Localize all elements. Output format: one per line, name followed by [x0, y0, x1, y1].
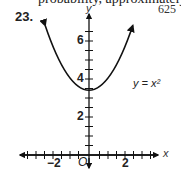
x-axis-label: x	[163, 147, 169, 159]
x-tick-label-neg2: −2	[47, 156, 61, 170]
y-axis-label: y	[86, 2, 92, 14]
x-tick-label-2: 2	[122, 156, 129, 170]
parabola-graph	[0, 0, 181, 178]
equation-label: y = x²	[133, 77, 160, 89]
origin-label: O	[78, 155, 87, 169]
y-tick-label-4: 4	[77, 71, 84, 85]
y-tick-label-6: 6	[77, 33, 84, 47]
y-tick-label-2: 2	[77, 109, 84, 123]
